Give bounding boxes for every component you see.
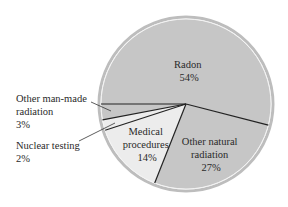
label-other-man-made: Other man-made radiation 3% — [16, 93, 89, 130]
label-nuclear-testing: Nuclear testing 2% — [16, 140, 82, 164]
pie-chart: Radon 54% Other natural radiation 27% Me… — [0, 0, 288, 207]
